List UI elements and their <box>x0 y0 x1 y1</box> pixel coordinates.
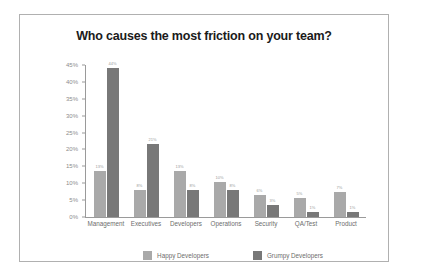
bar[interactable]: 13% <box>94 171 106 217</box>
bar[interactable]: 13% <box>174 171 186 217</box>
bar[interactable]: 1% <box>307 212 319 217</box>
y-axis-tick-label: 45% <box>66 62 78 68</box>
x-axis-tick-label: Management <box>86 220 126 227</box>
bar-value-label: 13% <box>175 164 183 169</box>
bar-group: 8%21% <box>126 65 166 217</box>
legend-label: Grumpy Developers <box>267 252 323 259</box>
legend-label: Happy Developers <box>157 252 209 259</box>
x-axis-tick-label: Executives <box>126 220 166 227</box>
bar[interactable]: 44% <box>107 68 119 217</box>
x-axis-tick-label: Product <box>326 220 366 227</box>
bar[interactable]: 6% <box>254 195 266 217</box>
y-axis-tick-label: 10% <box>66 180 78 186</box>
bar[interactable]: 3% <box>267 205 279 217</box>
bar[interactable]: 1% <box>347 212 359 217</box>
bar-group: 7%1% <box>326 65 366 217</box>
y-axis-tick-label: 25% <box>66 130 78 136</box>
bar-value-label: 1% <box>310 205 316 210</box>
bar-group: 6%3% <box>246 65 286 217</box>
x-axis-labels: ManagementExecutivesDevelopersOperations… <box>86 220 366 227</box>
bar[interactable]: 5% <box>294 198 306 217</box>
bar-value-label: 8% <box>230 183 236 188</box>
bar[interactable]: 21% <box>147 144 159 217</box>
y-axis: 0%5%10%15%20%25%30%35%40%45% <box>56 65 82 217</box>
chart-title: Who causes the most friction on your tea… <box>20 29 388 43</box>
legend-item[interactable]: Happy Developers <box>143 251 209 260</box>
bar[interactable]: 8% <box>134 190 146 217</box>
bar-value-label: 7% <box>337 185 343 190</box>
x-axis-tick-label: Security <box>246 220 286 227</box>
bar-value-label: 5% <box>297 191 303 196</box>
y-axis-tick-label: 5% <box>69 197 78 203</box>
legend-swatch <box>143 251 152 260</box>
bar-value-label: 8% <box>137 183 143 188</box>
chart-frame: Who causes the most friction on your tea… <box>19 14 389 262</box>
bar[interactable]: 8% <box>227 190 239 217</box>
y-axis-tick-label: 15% <box>66 163 78 169</box>
screenshot-root: Who causes the most friction on your tea… <box>0 0 426 278</box>
bar-value-label: 21% <box>148 137 156 142</box>
bar-value-label: 6% <box>257 188 263 193</box>
x-axis-line <box>85 217 366 218</box>
bar-value-label: 8% <box>190 183 196 188</box>
bar-value-label: 10% <box>215 175 223 180</box>
y-axis-tick-label: 35% <box>66 96 78 102</box>
bar-group: 5%1% <box>286 65 326 217</box>
bar-group: 13%8% <box>166 65 206 217</box>
bars-region: 13%44%8%21%13%8%10%8%6%3%5%1%7%1% <box>86 65 366 217</box>
bar-value-label: 13% <box>95 164 103 169</box>
bar[interactable]: 10% <box>214 182 226 217</box>
legend-item[interactable]: Grumpy Developers <box>253 251 323 260</box>
bar-group: 10%8% <box>206 65 246 217</box>
bar-value-label: 1% <box>350 205 356 210</box>
bar[interactable]: 8% <box>187 190 199 217</box>
bar-value-label: 3% <box>270 198 276 203</box>
chart-legend: Happy DevelopersGrumpy Developers <box>20 251 426 260</box>
x-axis-tick-label: QA/Test <box>286 220 326 227</box>
x-axis-tick-label: Developers <box>166 220 206 227</box>
y-axis-tick-label: 0% <box>69 214 78 220</box>
y-axis-tick-label: 30% <box>66 113 78 119</box>
legend-swatch <box>253 251 262 260</box>
y-axis-tick-label: 20% <box>66 146 78 152</box>
bar-value-label: 44% <box>108 61 116 66</box>
bar[interactable]: 7% <box>334 192 346 217</box>
x-axis-tick-label: Operations <box>206 220 246 227</box>
plot-area: 0%5%10%15%20%25%30%35%40%45% 13%44%8%21%… <box>56 65 366 217</box>
bar-group: 13%44% <box>86 65 126 217</box>
y-axis-tick-label: 40% <box>66 79 78 85</box>
